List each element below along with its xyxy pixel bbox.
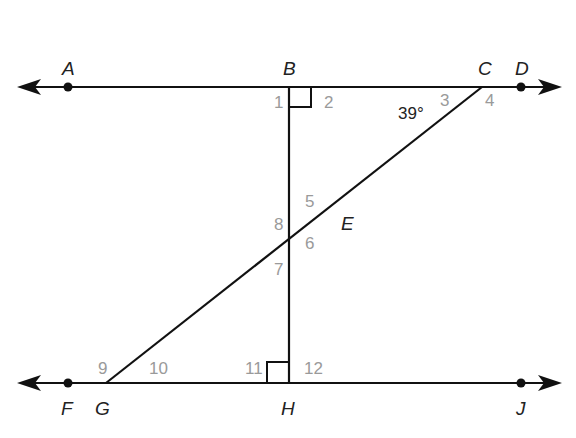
point-j-dot bbox=[517, 379, 526, 388]
angle-10: 10 bbox=[149, 359, 168, 378]
label-a: A bbox=[61, 58, 75, 79]
angle-9: 9 bbox=[98, 359, 107, 378]
angle-7: 7 bbox=[274, 260, 283, 279]
label-g: G bbox=[95, 398, 110, 419]
label-b: B bbox=[283, 58, 296, 79]
angle-measure-39: 39° bbox=[398, 104, 424, 123]
angle-12: 12 bbox=[304, 359, 323, 378]
right-angle-mark-h bbox=[267, 362, 289, 383]
point-a-dot bbox=[64, 83, 73, 92]
label-e: E bbox=[341, 213, 354, 234]
angle-1: 1 bbox=[274, 93, 283, 112]
geometry-diagram: A B C D E F G H J 1 2 3 4 5 6 7 8 9 10 1… bbox=[0, 0, 576, 438]
label-j: J bbox=[515, 398, 526, 419]
angle-4: 4 bbox=[485, 91, 494, 110]
label-c: C bbox=[478, 58, 492, 79]
angle-2: 2 bbox=[324, 93, 333, 112]
label-f: F bbox=[61, 398, 74, 419]
angle-8: 8 bbox=[274, 215, 283, 234]
angle-6: 6 bbox=[305, 234, 314, 253]
angle-3: 3 bbox=[440, 91, 449, 110]
angle-5: 5 bbox=[305, 192, 314, 211]
segment-cg bbox=[106, 87, 482, 383]
point-d-dot bbox=[517, 83, 526, 92]
angle-11: 11 bbox=[245, 359, 263, 378]
right-angle-mark-b bbox=[289, 87, 311, 107]
label-d: D bbox=[515, 58, 529, 79]
point-f-dot bbox=[64, 379, 73, 388]
label-h: H bbox=[281, 398, 295, 419]
